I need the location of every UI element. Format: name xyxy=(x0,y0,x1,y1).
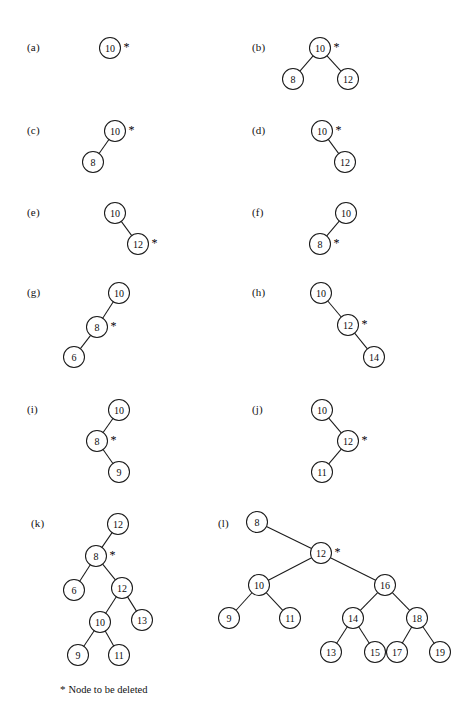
node-circle xyxy=(64,347,85,368)
tree-node: 9 xyxy=(109,462,130,483)
deleted-node-asterisk-icon: * xyxy=(336,123,342,137)
tree-edge xyxy=(329,449,342,464)
tree-node: 19 xyxy=(430,642,451,663)
tree-node: 16 xyxy=(375,575,396,596)
node-value: 12 xyxy=(113,519,123,530)
tree-edge xyxy=(103,450,113,464)
deleted-node-asterisk-icon: * xyxy=(362,433,368,447)
panel-label-i: (i) xyxy=(27,403,38,415)
node-value: 10 xyxy=(114,405,124,416)
tree-node: 10* xyxy=(312,121,342,142)
node-circle xyxy=(311,543,332,564)
node-value: 16 xyxy=(380,580,390,591)
tree-edge xyxy=(330,558,375,581)
tree-node: 8 xyxy=(83,152,104,173)
node-circle xyxy=(249,575,270,596)
tree-edge xyxy=(103,564,116,580)
node-value: 10 xyxy=(317,126,327,137)
tree-edge xyxy=(236,593,252,610)
node-value: 15 xyxy=(370,647,380,658)
node-value: 9 xyxy=(117,467,122,478)
node-value: 19 xyxy=(435,647,445,658)
asterisk-icon: * xyxy=(60,683,69,695)
node-value: 11 xyxy=(114,650,124,661)
tree-edge xyxy=(329,418,342,433)
node-circle xyxy=(247,512,268,533)
deleted-node-asterisk-icon: * xyxy=(362,317,368,331)
node-value: 12 xyxy=(316,548,326,559)
bst-deletion-figure: 10*10*81210*810*121012*108*108*61012*141… xyxy=(0,0,475,705)
tree-edge xyxy=(355,333,368,349)
node-value: 12 xyxy=(117,583,127,594)
panel-label-d: (d) xyxy=(252,124,265,136)
panel-label-c: (c) xyxy=(27,124,40,136)
node-circle xyxy=(90,612,111,633)
tree-edge xyxy=(328,139,338,153)
panel-label-a: (a) xyxy=(27,41,40,53)
tree-node: 8* xyxy=(86,546,116,567)
deleted-node-asterisk-icon: * xyxy=(129,123,135,137)
node-circle xyxy=(336,203,357,224)
tree-node: 10 xyxy=(312,400,333,421)
tree-edge xyxy=(337,627,348,643)
tree-node: 12 xyxy=(108,514,129,535)
tree-node: 10 xyxy=(109,283,130,304)
tree-edge xyxy=(268,558,311,580)
node-circle xyxy=(338,69,359,90)
tree-edge xyxy=(266,593,283,611)
node-value: 8 xyxy=(318,239,323,250)
node-value: 13 xyxy=(326,647,336,658)
panel-label-g: (g) xyxy=(27,286,40,298)
tree-node: 10 xyxy=(90,612,111,633)
node-value: 8 xyxy=(91,157,96,168)
tree-node: 14 xyxy=(364,347,385,368)
edges-group xyxy=(80,56,434,646)
tree-edge xyxy=(423,627,434,644)
node-value: 10 xyxy=(105,43,115,54)
panel-label-h: (h) xyxy=(252,286,265,298)
tree-node: 12* xyxy=(128,234,158,255)
node-value: 10 xyxy=(317,405,327,416)
node-value: 10 xyxy=(315,43,325,54)
tree-node: 8 xyxy=(283,69,304,90)
node-circle xyxy=(310,234,331,255)
node-circle xyxy=(338,315,359,336)
node-circle xyxy=(283,69,304,90)
tree-node: 15 xyxy=(365,642,386,663)
node-value: 8 xyxy=(291,74,296,85)
tree-node: 11 xyxy=(109,645,130,666)
node-circle xyxy=(109,462,130,483)
tree-node: 10* xyxy=(310,38,340,59)
tree-node: 11 xyxy=(280,608,301,629)
tree-node: 10* xyxy=(105,121,135,142)
tree-node: 9 xyxy=(219,608,240,629)
tree-node: 13 xyxy=(132,610,153,631)
tree-node: 12* xyxy=(338,315,368,336)
tree-node: 14 xyxy=(343,608,364,629)
tree-node: 12 xyxy=(338,69,359,90)
node-circle xyxy=(109,400,130,421)
tree-edge xyxy=(300,56,313,71)
node-circle xyxy=(87,317,108,338)
tree-edge xyxy=(360,593,377,611)
node-value: 18 xyxy=(412,613,422,624)
panel-label-j: (j) xyxy=(252,403,263,415)
tree-edge xyxy=(392,593,409,611)
tree-node: 10 xyxy=(249,575,270,596)
node-value: 12 xyxy=(343,74,353,85)
tree-node: 10 xyxy=(311,283,332,304)
node-circle xyxy=(87,431,108,452)
panel-label-l: (l) xyxy=(218,517,229,529)
tree-node: 8* xyxy=(87,317,117,338)
tree-edge xyxy=(103,302,114,318)
deleted-node-asterisk-icon: * xyxy=(111,319,117,333)
node-circle xyxy=(321,642,342,663)
node-value: 14 xyxy=(348,613,358,624)
deleted-node-asterisk-icon: * xyxy=(111,433,117,447)
tree-node: 10* xyxy=(100,38,130,59)
tree-node: 10 xyxy=(336,203,357,224)
tree-node: 13 xyxy=(321,642,342,663)
deleted-node-asterisk-icon: * xyxy=(335,545,341,559)
node-circle xyxy=(128,234,149,255)
deleted-node-asterisk-icon: * xyxy=(124,40,130,54)
